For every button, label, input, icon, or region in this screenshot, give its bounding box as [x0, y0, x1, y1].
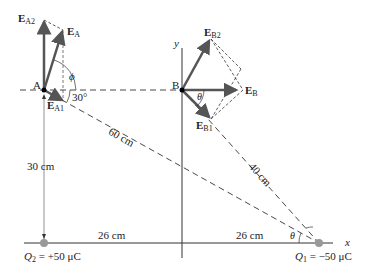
label-26cm-left: 26 cm [98, 230, 125, 241]
vector-EB1 [182, 90, 209, 117]
charge-Q2 [40, 239, 48, 247]
vector-EB2 [182, 41, 209, 90]
label-EB1: EB1 [196, 120, 213, 133]
point-B [180, 88, 185, 93]
label-30deg: 30° [72, 92, 87, 103]
field-diagram [0, 0, 379, 276]
label-Q2: Q2 = +50 μC [24, 251, 81, 264]
label-EA2: EA2 [18, 13, 35, 26]
label-point-A: A [33, 80, 41, 91]
label-theta-Q1: θ [290, 231, 295, 241]
charge-Q1 [315, 239, 323, 247]
label-y-axis: y [174, 38, 179, 49]
vector-EA [44, 32, 62, 90]
label-30cm: 30 cm [27, 161, 54, 172]
label-EB: EB [245, 85, 258, 98]
label-point-B: B [172, 80, 179, 91]
label-26cm-right: 26 cm [236, 230, 263, 241]
label-EA1: EA1 [47, 100, 64, 113]
point-A [42, 88, 47, 93]
label-EA: EA [67, 26, 80, 39]
label-x-axis: x [345, 237, 350, 248]
label-EB2: EB2 [204, 27, 221, 40]
label-Q1: Q1 = −50 μC [295, 251, 352, 264]
label-theta-B: θ [197, 92, 202, 102]
label-phi: ϕ [69, 71, 75, 82]
